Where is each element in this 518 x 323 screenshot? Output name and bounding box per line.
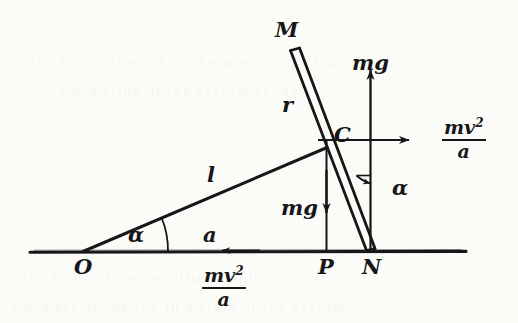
force-label-acceleration-a: a <box>203 224 217 245</box>
force-label-mg-up: mg <box>352 52 389 73</box>
segment-label-r: r <box>282 94 293 115</box>
angle-alpha-arc-at-N <box>357 176 371 184</box>
fraction-numerator: mv2 <box>442 118 486 141</box>
point-label-O: O <box>74 256 92 277</box>
angle-alpha-arc-at-O <box>162 218 169 253</box>
rod-MN <box>291 48 376 251</box>
force-label-centrifugal-bottom: mv2 a <box>202 266 246 310</box>
segment-label-l: l <box>207 164 215 185</box>
point-label-C: C <box>334 124 351 145</box>
angle-label-alpha-at-N: α <box>392 177 408 198</box>
angle-label-alpha-at-O: α <box>128 224 144 245</box>
fraction-denominator: a <box>442 141 486 162</box>
point-label-P: P <box>318 256 334 277</box>
point-label-M: M <box>275 19 298 40</box>
fraction-denominator: a <box>202 289 246 310</box>
physics-diagram-figure: the bar of the rod of the mass in the ba… <box>0 0 518 323</box>
force-label-centrifugal-right: mv2 a <box>442 118 486 162</box>
force-label-mg-down: mg <box>281 197 318 218</box>
exponent: 2 <box>475 116 483 130</box>
exponent: 2 <box>235 264 243 278</box>
point-label-N: N <box>362 256 381 277</box>
fraction-numerator: mv2 <box>202 266 246 289</box>
